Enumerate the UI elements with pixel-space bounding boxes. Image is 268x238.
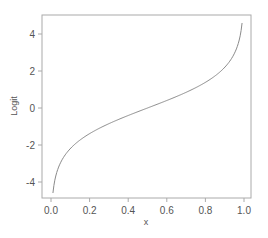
- x-axis: 0.00.20.40.60.81.0: [44, 198, 251, 216]
- x-tick-label: 0.4: [121, 205, 135, 216]
- x-tick-label: 0.8: [198, 205, 212, 216]
- x-tick-label: 1.0: [237, 205, 251, 216]
- y-tick-label: 4: [29, 29, 35, 40]
- x-tick-label: 0.0: [44, 205, 58, 216]
- y-axis-label: Logit: [9, 96, 19, 116]
- x-tick-label: 0.2: [83, 205, 97, 216]
- plot-frame: [42, 15, 251, 198]
- x-axis-label: x: [144, 217, 149, 227]
- y-tick-label: 2: [29, 66, 35, 77]
- x-tick-label: 0.6: [160, 205, 174, 216]
- y-tick-label: -4: [26, 177, 35, 188]
- y-axis: -4-2024: [26, 29, 42, 188]
- y-tick-label: 0: [29, 103, 35, 114]
- logit-curve: [53, 23, 242, 193]
- y-tick-label: -2: [26, 140, 35, 151]
- logit-chart: -4-2024 0.00.20.40.60.81.0 x Logit: [0, 0, 268, 238]
